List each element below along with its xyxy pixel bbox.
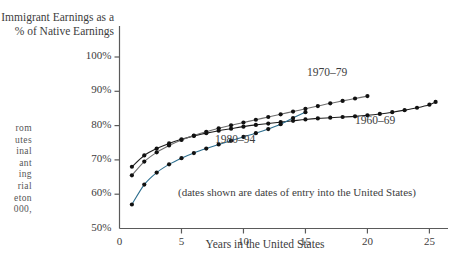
data-point: [341, 99, 345, 103]
series-label-1960-69: 1960–69: [355, 114, 395, 126]
data-point: [303, 110, 307, 114]
data-point: [291, 116, 295, 120]
data-point: [303, 117, 307, 121]
data-point: [365, 94, 369, 98]
data-point: [229, 123, 233, 127]
data-point: [192, 151, 196, 155]
data-point: [291, 109, 295, 113]
data-point: [254, 118, 258, 122]
data-point: [192, 133, 196, 137]
data-point: [403, 108, 407, 112]
y-tick-label: 70%: [72, 152, 112, 164]
axis-lines: [120, 26, 449, 229]
data-point: [434, 100, 438, 104]
x-axis-ticks: [181, 229, 429, 234]
y-tick-label: 80%: [72, 118, 112, 130]
chart-note: (dates shown are dates of entry into the…: [178, 186, 416, 198]
y-tick-label: 100%: [72, 49, 112, 61]
data-point: [279, 112, 283, 116]
y-tick-label: 90%: [72, 83, 112, 95]
data-point: [353, 96, 357, 100]
series-1960-69: [130, 100, 438, 169]
x-tick-label: 25: [414, 235, 444, 247]
data-point: [341, 115, 345, 119]
data-point: [316, 116, 320, 120]
y-tick-label: 60%: [72, 186, 112, 198]
data-point: [217, 126, 221, 130]
data-point: [167, 143, 171, 147]
series-label-1980-94: 1980–94: [215, 133, 255, 145]
series-label-1970-79: 1970–79: [307, 66, 347, 78]
data-point: [142, 183, 146, 187]
data-point: [130, 202, 134, 206]
series-line-1960-69: [132, 102, 436, 167]
y-axis-ticks: [115, 57, 120, 194]
data-point: [155, 170, 159, 174]
data-point: [241, 125, 245, 129]
plot-area: [0, 0, 450, 260]
data-point: [415, 106, 419, 110]
data-point: [130, 173, 134, 177]
data-point: [142, 153, 146, 157]
data-point: [266, 121, 270, 125]
chart-figure: Immigrant Earnings as a % of Native Earn…: [0, 0, 450, 260]
data-point: [167, 162, 171, 166]
data-point: [254, 123, 258, 127]
data-point: [179, 138, 183, 142]
data-point: [266, 127, 270, 131]
data-point: [328, 101, 332, 105]
data-point: [241, 120, 245, 124]
data-point: [427, 103, 431, 107]
data-point: [155, 150, 159, 154]
data-point: [204, 130, 208, 134]
data-point: [204, 146, 208, 150]
x-axis-title: Years in the United States: [120, 238, 410, 250]
data-point: [316, 104, 320, 108]
y-tick-label: 50%: [72, 221, 112, 233]
data-point: [179, 156, 183, 160]
data-point: [328, 116, 332, 120]
data-point: [279, 122, 283, 126]
data-point: [155, 146, 159, 150]
data-point: [142, 160, 146, 164]
data-point: [130, 165, 134, 169]
data-point: [266, 115, 270, 119]
